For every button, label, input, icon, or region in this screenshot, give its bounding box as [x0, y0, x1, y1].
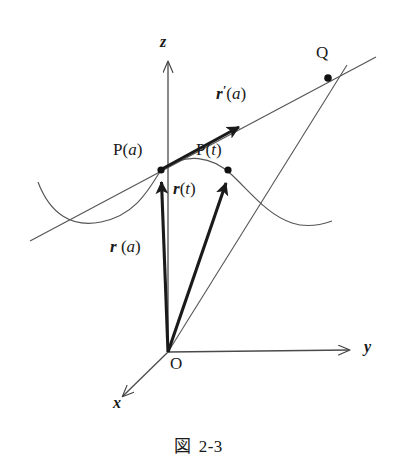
vector-r-a	[162, 182, 169, 352]
vector-symbol-r: r	[216, 84, 223, 103]
vector-paren-close: )	[190, 179, 196, 198]
secant-line-o-q	[168, 65, 347, 352]
diagram-canvas	[0, 0, 397, 471]
caption-number: 2-3	[199, 437, 223, 456]
y-axis	[168, 350, 349, 352]
point-paren-close: )	[216, 140, 222, 159]
point-label-q: Q	[316, 44, 328, 61]
vector-paren-close: )	[240, 84, 246, 103]
axis-label-z: z	[160, 34, 166, 50]
vector-label-r-a: r (a)	[110, 238, 141, 255]
point-paren-close: )	[137, 140, 143, 159]
point-dot-q	[324, 74, 332, 82]
vector-symbol-r: r	[173, 179, 180, 198]
vector-r-t	[168, 183, 226, 352]
vector-paren-close: )	[135, 237, 141, 256]
vector-arg-a: a	[127, 237, 136, 256]
caption-symbol: 図	[174, 437, 192, 456]
point-label-p-a: P(a)	[113, 141, 142, 158]
x-axis	[123, 352, 168, 396]
vector-label-r-t: r(t)	[173, 180, 196, 197]
figure-container: z y x O P(a) P(t) Q r (a) r(t) r′(a) 図2-…	[0, 0, 397, 471]
origin-label: O	[170, 355, 182, 372]
point-label-p-a-arg: a	[128, 140, 137, 159]
axis-label-x: x	[113, 395, 121, 411]
point-label-p-t: P(t)	[196, 141, 222, 158]
point-dot-p-a	[157, 166, 164, 173]
vector-label-r-prime-a: r′(a)	[216, 83, 246, 102]
point-dot-p-t	[224, 166, 231, 173]
figure-caption: 図2-3	[0, 432, 397, 457]
vector-symbol-r: r	[110, 237, 117, 256]
axis-label-y: y	[364, 339, 371, 355]
